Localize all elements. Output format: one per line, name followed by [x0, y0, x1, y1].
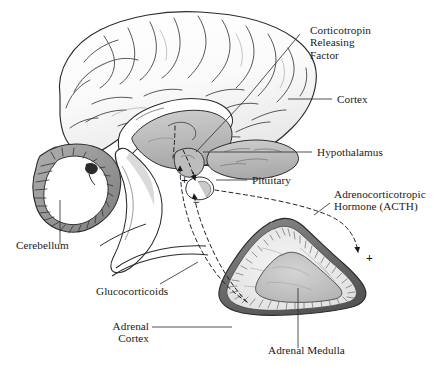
label-corticotropin-releasing-factor: Corticotropin Releasing Factor [310, 24, 371, 61]
cerebellum [33, 144, 121, 233]
brainstem [111, 148, 162, 273]
brain-adrenal-illustration [0, 0, 443, 374]
minus-sign-hypothalamus: − [193, 196, 200, 208]
adrenal-gland-cross-section [219, 219, 366, 316]
label-hypothalamus: Hypothalamus [317, 146, 383, 158]
label-cortex: Cortex [337, 93, 368, 105]
leader-glucocorticoids [160, 262, 198, 284]
label-adrenal-cortex: Adrenal Cortex [87, 320, 149, 345]
label-adrenal-medulla: Adrenal Medulla [268, 344, 345, 356]
hpa-axis-figure: Corticotropin Releasing Factor Cortex Hy… [0, 0, 443, 374]
label-acth: Adrenocorticotropic Hormone (ACTH) [334, 188, 426, 213]
label-glucocorticoids: Glucocorticoids [96, 285, 168, 297]
label-cerebellum: Cerebellum [16, 239, 69, 251]
plus-sign-adrenal: + [366, 252, 373, 264]
label-pituitary: Pituitary [252, 174, 291, 186]
plus-sign-pituitary: + [181, 174, 188, 186]
